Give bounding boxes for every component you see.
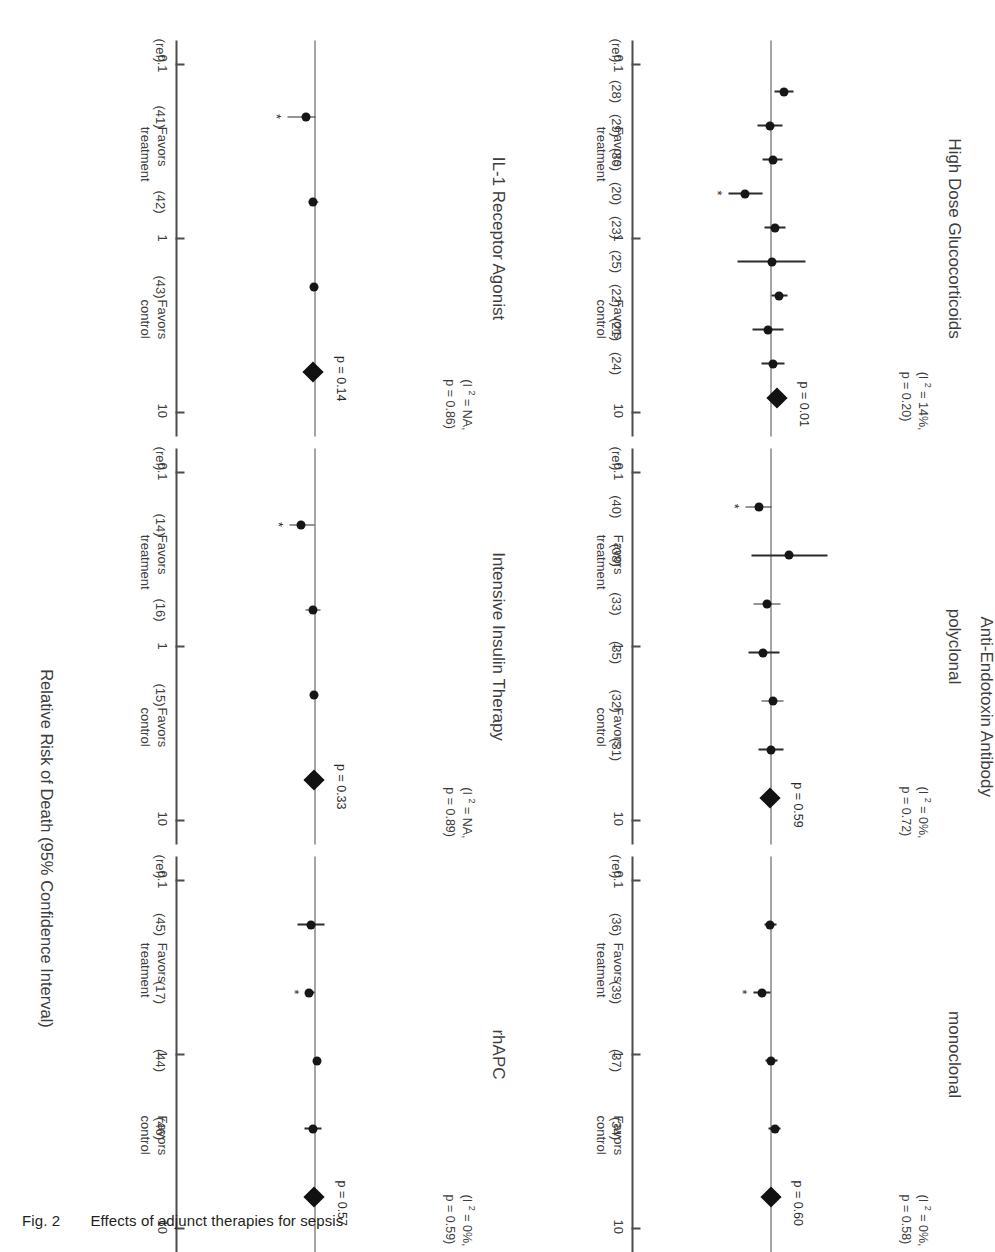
heterogeneity-p-value: p = 0.72): [896, 786, 914, 838]
reference-label: (33): [608, 592, 623, 615]
pooled-estimate-diamond: [303, 769, 324, 790]
plot-area: *p = 0.33: [175, 448, 411, 844]
panel-title: rhAPC: [487, 856, 507, 1252]
reference-label: (31): [608, 738, 623, 761]
reference-label: (46): [152, 1116, 167, 1139]
x-axis-tick-1: [175, 237, 184, 239]
plot-area: *p = 0.59: [631, 448, 867, 844]
reference-label: (41): [152, 105, 167, 128]
i-squared-value: (I 2 = 0%,: [914, 786, 933, 838]
x-axis-tick-1: [175, 1053, 184, 1055]
study-point-estimate: [309, 690, 318, 699]
null-effect-line: [770, 40, 771, 436]
study-point-estimate: [767, 1056, 776, 1065]
figure-number: Fig. 2: [22, 1212, 60, 1229]
x-axis-tick-10: [631, 411, 640, 413]
reference-label: (21): [608, 317, 623, 340]
pooled-estimate-diamond: [303, 1185, 324, 1206]
pooled-p-value: p = 0.33: [333, 764, 347, 810]
heterogeneity-stats: (I 2 = 0%,p = 0.72): [896, 786, 933, 838]
reference-label: (45): [152, 912, 167, 935]
study-point-estimate: [308, 197, 317, 206]
x-axis-title: Relative Risk of Death (95% Confidence I…: [36, 448, 55, 1248]
reference-label: (34): [608, 1116, 623, 1139]
panel-title: IL-1 Receptor Agonist: [487, 40, 507, 436]
reference-label: (22): [608, 283, 623, 306]
heterogeneity-p-value: p = 0.86): [440, 379, 458, 430]
i-squared-value: (I 2 = 14%,: [914, 371, 933, 430]
heterogeneity-stats: (I 2 = NA,p = 0.86): [440, 379, 477, 430]
x-axis-tick-0.1: [631, 63, 640, 65]
x-axis-tick-10: [175, 819, 184, 821]
group-header-label: Anti-Endotoxin Antibody: [976, 616, 995, 797]
panel-title: Intensive Insulin Therapy: [487, 448, 507, 844]
forest-panel-intensive-insulin-therapy: Intensive Insulin Therapy(I 2 = NA,p = 0…: [105, 448, 523, 844]
study-point-estimate: [784, 550, 793, 559]
heterogeneity-p-value: p = 0.89): [440, 787, 458, 838]
study-point-estimate: [740, 189, 749, 198]
heterogeneity-stats: (I 2 = 14%,p = 0.20): [896, 371, 933, 430]
pooled-estimate-diamond: [302, 361, 323, 382]
panel-title: High Dose Glucocorticoids: [943, 40, 963, 436]
forest-panel-polyclonal: polyclonal(I 2 = 0%,p = 0.72)*p = 0.590.…: [561, 448, 979, 844]
x-axis-tick-0.1: [631, 879, 640, 881]
study-point-estimate: [301, 112, 310, 121]
heterogeneity-p-value: p = 0.59): [440, 1194, 458, 1246]
reference-label: (16): [152, 598, 167, 621]
significance-star-icon: *: [710, 190, 723, 195]
reference-label: (36): [608, 912, 623, 935]
reference-label: (20): [608, 181, 623, 204]
i-squared-value: (I 2 = 0%,: [458, 1194, 477, 1246]
reference-header: (ref): [608, 446, 623, 470]
forest-panel-rhapc: rhAPC(I 2 = 0%,p = 0.59)*p = 0.570.1110F…: [105, 856, 523, 1252]
reference-list: (ref)(36)(39)(37)(34): [567, 856, 623, 1252]
reference-label: (39): [608, 980, 623, 1003]
study-point-estimate: [771, 223, 780, 232]
pooled-estimate-diamond: [766, 386, 787, 407]
x-axis-tick-0.1: [631, 471, 640, 473]
x-axis-tick-0.1: [175, 63, 184, 65]
reference-header: (ref): [152, 38, 167, 62]
reference-label: (23): [608, 215, 623, 238]
reference-label: (28): [608, 79, 623, 102]
reference-header: (ref): [152, 446, 167, 470]
reference-list: (ref)(41)(42)(43): [111, 40, 167, 436]
plot-area: *p = 0.01: [631, 40, 867, 436]
study-point-estimate: [774, 291, 783, 300]
study-point-estimate: [754, 502, 763, 511]
plot-area: *p = 0.14: [175, 40, 411, 436]
pooled-estimate-diamond: [759, 787, 780, 808]
reference-label: (38): [608, 543, 623, 566]
significance-star-icon: *: [270, 114, 283, 119]
reference-list: (ref)(40)(38)(33)(35)(32)(31): [567, 448, 623, 844]
reference-label: (35): [608, 640, 623, 663]
study-point-estimate: [765, 121, 774, 130]
reference-list: (ref)(45)(17)(44)(46): [111, 856, 167, 1252]
reference-label: (25): [608, 249, 623, 272]
reference-label: (44): [152, 1048, 167, 1071]
significance-star-icon: *: [287, 989, 300, 994]
study-point-estimate: [308, 605, 317, 614]
plot-area: *p = 0.57: [175, 856, 411, 1252]
study-point-estimate: [765, 920, 774, 929]
significance-star-icon: *: [727, 503, 740, 508]
reference-label: (37): [608, 1048, 623, 1071]
i-squared-value: (I 2 = NA,: [458, 379, 477, 430]
heterogeneity-p-value: p = 0.20): [896, 371, 914, 430]
reference-header: (ref): [608, 38, 623, 62]
study-point-estimate: [305, 988, 314, 997]
x-axis-tick-0.1: [175, 879, 184, 881]
study-point-estimate: [768, 359, 777, 368]
study-point-estimate: [766, 745, 775, 754]
x-axis-tick-1: [631, 1053, 640, 1055]
significance-star-icon: *: [735, 989, 748, 994]
x-axis-tick-1: [631, 645, 640, 647]
reference-label: (17): [152, 980, 167, 1003]
study-point-estimate: [770, 1124, 779, 1133]
pooled-p-value: p = 0.14: [333, 356, 347, 402]
study-point-estimate: [296, 520, 305, 529]
reference-label: (29): [608, 113, 623, 136]
reference-header: (ref): [152, 854, 167, 878]
